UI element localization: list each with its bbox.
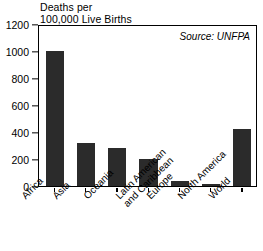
- bar: [233, 129, 251, 186]
- y-tick-label: 1200: [6, 19, 29, 31]
- y-tick-label: 200: [11, 154, 29, 166]
- y-tick-label: 800: [11, 73, 29, 85]
- chart-title-line-2: 100,000 Live Births: [40, 13, 132, 25]
- y-tick-label: 600: [11, 100, 29, 112]
- x-axis: AfricaAsiaOceaniaLatin Americanand Carib…: [0, 188, 263, 251]
- y-tick-label: 1000: [6, 46, 29, 58]
- x-tick-mark: [241, 188, 242, 192]
- bar: [46, 51, 64, 186]
- chart-title: Deaths per 100,000 Live Births: [40, 1, 132, 25]
- maternal-mortality-bar-chart: Deaths per 100,000 Live Births 020040060…: [0, 0, 263, 251]
- bar: [108, 148, 126, 186]
- bar: [77, 143, 95, 186]
- y-tick-label: 400: [11, 127, 29, 139]
- chart-title-line-1: Deaths per: [40, 1, 132, 13]
